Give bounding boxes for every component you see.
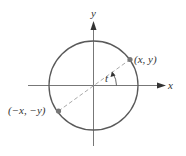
point-x-y-label: (x, y) — [134, 53, 157, 66]
point-x-y — [127, 57, 132, 62]
point-neg-x-neg-y — [56, 108, 61, 113]
x-axis-label: x — [167, 79, 173, 91]
y-axis-arrow-icon — [91, 21, 97, 30]
point-neg-label: (−x, −y) — [8, 104, 46, 117]
unit-circle-diagram: y x (x, y) (−x, −y) t — [0, 0, 186, 156]
angle-label: t — [105, 72, 109, 84]
x-axis-arrow-icon — [157, 83, 166, 89]
y-axis-label: y — [90, 7, 96, 19]
diagram-canvas: y x (x, y) (−x, −y) t — [0, 0, 186, 156]
